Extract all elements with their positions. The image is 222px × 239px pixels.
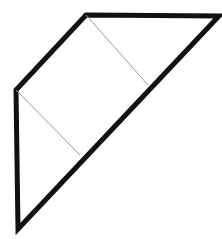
folded-shape-figure <box>0 0 222 239</box>
diagram-canvas <box>0 0 222 239</box>
